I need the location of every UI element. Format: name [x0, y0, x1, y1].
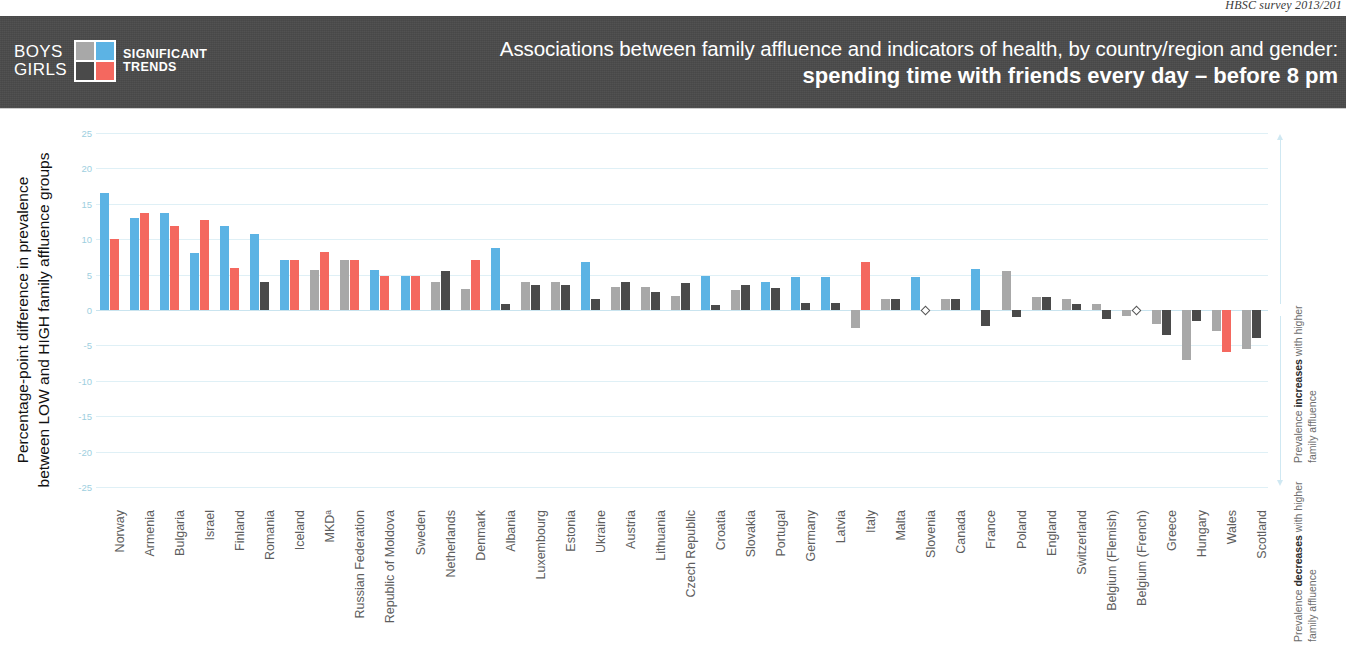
bar-boys [581, 262, 590, 310]
bar-boys [401, 276, 410, 310]
source-note: HBSC survey 2013/201 [1225, 0, 1342, 13]
bar-girls [230, 268, 239, 310]
bar-group [881, 108, 911, 508]
bar-boys [1152, 310, 1161, 324]
x-axis-label-bulgaria: Bulgaria [173, 510, 187, 556]
x-axis-label-israel: Israel [203, 510, 217, 541]
bar-boys [431, 282, 440, 310]
x-axis-label-mkd: MKDᵃ [323, 510, 337, 542]
bar-group [851, 108, 881, 508]
bar-group [130, 108, 160, 508]
bar-girls [501, 304, 510, 310]
bar-boys [160, 213, 169, 310]
bar-boys [1242, 310, 1251, 349]
y-tick-label-20: 20 [66, 163, 92, 174]
bar-boys [671, 296, 680, 310]
bar-girls [1102, 310, 1111, 319]
bar-group [310, 108, 340, 508]
bar-boys [130, 218, 139, 310]
y-tick-label--10: -10 [66, 375, 92, 386]
bar-group [731, 108, 761, 508]
y-axis-title-text: Percentage-point difference in prevalenc… [13, 153, 55, 488]
bar-girls [290, 260, 299, 310]
bar-group [791, 108, 821, 508]
bar-group [581, 108, 611, 508]
bar-group [190, 108, 220, 508]
legend-trend-labels: SIGNIFICANT TRENDS [123, 48, 207, 75]
x-axis-label-switzerland: Switzerland [1075, 510, 1089, 575]
bar-group [1152, 108, 1182, 508]
x-axis-label-wales: Wales [1225, 510, 1239, 544]
bar-girls [861, 262, 870, 310]
bar-girls [711, 305, 720, 310]
swatch-girls-nonsignificant [76, 62, 94, 80]
x-axis-label-italy: Italy [864, 510, 878, 533]
x-axis-label-belgium-flemish-: Belgium (Flemish) [1105, 510, 1119, 611]
y-tick-label-0: 0 [66, 305, 92, 316]
bar-group [941, 108, 971, 508]
legend-gender-labels: BOYS GIRLS [14, 43, 67, 80]
bar-group [911, 108, 941, 508]
bar-group [1092, 108, 1122, 508]
swatch-girls-significant [96, 62, 114, 80]
zero-marker-diamond [1131, 305, 1141, 315]
zero-marker-diamond [921, 305, 931, 315]
swatch-boys-significant [96, 42, 114, 60]
y-tick-label--25: -25 [66, 482, 92, 493]
bar-boys [521, 282, 530, 310]
bar-girls [441, 271, 450, 310]
bar-boys [611, 287, 620, 310]
bar-group [220, 108, 250, 508]
bar-boys [1212, 310, 1221, 331]
bar-girls [591, 299, 600, 310]
legend: BOYS GIRLS SIGNIFICANT TRENDS [14, 40, 207, 82]
x-axis-label-england: England [1045, 510, 1059, 556]
x-axis-labels: NorwayArmeniaBulgariaIsraelFinlandRomani… [96, 510, 1268, 662]
legend-swatch-grid [74, 40, 116, 82]
x-axis-label-denmark: Denmark [474, 510, 488, 561]
bar-girls [981, 310, 990, 326]
bar-girls [350, 260, 359, 310]
x-axis-label-netherlands: Netherlands [444, 510, 458, 577]
bars-container [96, 108, 1268, 508]
bar-girls [531, 285, 540, 310]
bar-girls [471, 260, 480, 310]
bar-group [401, 108, 431, 508]
x-axis-label-slovakia: Slovakia [744, 510, 758, 557]
y-tick-label--20: -20 [66, 446, 92, 457]
bar-girls [140, 213, 149, 310]
swatch-boys-nonsignificant [76, 42, 94, 60]
bar-girls [771, 288, 780, 310]
x-axis-label-albania: Albania [504, 510, 518, 552]
x-axis-label-romania: Romania [263, 510, 277, 560]
bar-group [701, 108, 731, 508]
y-tick-label-10: 10 [66, 234, 92, 245]
x-axis-label-estonia: Estonia [564, 510, 578, 552]
y-tick-label--15: -15 [66, 411, 92, 422]
x-axis-label-canada: Canada [954, 510, 968, 554]
legend-label-boys: BOYS [14, 43, 67, 61]
legend-label-trends: TRENDS [123, 61, 207, 75]
x-axis-label-malta: Malta [894, 510, 908, 541]
y-tick-label-25: 25 [66, 128, 92, 139]
x-axis-label-norway: Norway [113, 510, 127, 552]
bar-group [370, 108, 400, 508]
bar-group [1212, 108, 1242, 508]
bar-group [1122, 108, 1152, 508]
bar-boys [731, 290, 740, 310]
x-axis-label-poland: Poland [1015, 510, 1029, 549]
bar-boys [100, 193, 109, 310]
bar-boys [701, 276, 710, 310]
x-axis-label-latvia: Latvia [834, 510, 848, 543]
x-axis-label-germany: Germany [804, 510, 818, 561]
bar-girls [1162, 310, 1171, 335]
bar-group [1002, 108, 1032, 508]
bar-group [431, 108, 461, 508]
x-axis-label-ukraine: Ukraine [594, 510, 608, 553]
bar-boys [641, 287, 650, 310]
x-axis-label-scotland: Scotland [1255, 510, 1269, 559]
bar-boys [491, 248, 500, 310]
bar-boys [911, 277, 920, 310]
bar-girls [681, 283, 690, 310]
bar-boys [551, 282, 560, 310]
